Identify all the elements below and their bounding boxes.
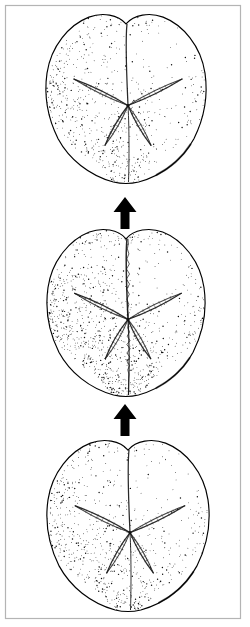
- specimen-layer: [45, 9, 210, 611]
- apical-disc: [129, 531, 132, 534]
- figure-root: Heart urchin aboral-view series Three st…: [0, 0, 250, 627]
- figure-canvas: [0, 0, 250, 627]
- apical-disc: [127, 104, 130, 107]
- apical-disc: [127, 318, 130, 321]
